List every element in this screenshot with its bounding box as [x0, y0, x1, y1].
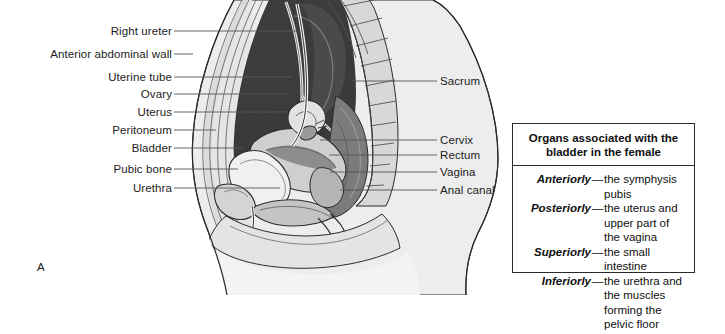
legend-desc-inferiorly: the urethra and the muscles forming the … — [604, 274, 687, 332]
legend-row: Posteriorly — the uterus and upper part … — [519, 201, 687, 245]
label-sacrum: Sacrum — [440, 75, 480, 88]
legend-box: Organs associated with the bladder in th… — [512, 123, 695, 273]
legend-title-line-2: bladder in the female — [521, 145, 686, 159]
legend-desc-posteriorly: the uterus and upper part of the vagina — [604, 201, 687, 245]
legend-desc-anteriorly: the symphysis pubis — [604, 172, 687, 201]
legend-desc-superiorly: the small intestine — [604, 245, 687, 274]
label-anal-canal: Anal canal — [440, 184, 495, 197]
label-uterus: Uterus — [138, 106, 172, 119]
legend-row: Superiorly — the small intestine — [519, 245, 687, 274]
legend-row: Inferiorly — the urethra and the muscles… — [519, 274, 687, 332]
label-right-ureter: Right ureter — [111, 25, 172, 38]
legend-term-posteriorly: Posteriorly — [519, 201, 591, 216]
label-vagina: Vagina — [440, 166, 476, 179]
legend-term-inferiorly: Inferiorly — [519, 274, 591, 289]
panel-letter: A — [37, 261, 45, 273]
label-urethra: Urethra — [133, 182, 172, 195]
label-rectum: Rectum — [440, 149, 480, 162]
legend-term-superiorly: Superiorly — [519, 245, 591, 260]
legend-dash: — — [591, 172, 604, 187]
legend-term-anteriorly: Anteriorly — [519, 172, 591, 187]
label-ovary: Ovary — [141, 88, 172, 101]
label-cervix: Cervix — [440, 134, 473, 147]
label-anterior-abdominal-wall: Anterior abdominal wall — [50, 48, 172, 61]
label-peritoneum: Peritoneum — [112, 124, 172, 137]
legend-dash: — — [591, 201, 604, 216]
label-pubic-bone: Pubic bone — [113, 163, 172, 176]
label-bladder: Bladder — [132, 142, 172, 155]
legend-dash: — — [591, 274, 604, 289]
legend-row: Anteriorly — the symphysis pubis — [519, 172, 687, 201]
legend-title-line-1: Organs associated with the — [521, 131, 686, 145]
legend-rows: Anteriorly — the symphysis pubis Posteri… — [513, 166, 694, 334]
legend-title: Organs associated with the bladder in th… — [513, 124, 694, 166]
label-uterine-tube: Uterine tube — [108, 71, 172, 84]
legend-dash: — — [591, 245, 604, 260]
